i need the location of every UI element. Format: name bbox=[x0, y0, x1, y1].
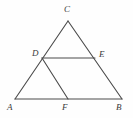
vertex-label-B: B bbox=[116, 103, 122, 112]
triangle-outline bbox=[15, 21, 122, 99]
vertex-label-F: F bbox=[62, 103, 68, 112]
segment-CB bbox=[68, 21, 122, 99]
inner-segments bbox=[42, 58, 95, 99]
segment-DF bbox=[42, 58, 68, 99]
vertex-label-E: E bbox=[99, 50, 105, 59]
vertex-label-D: D bbox=[32, 49, 39, 58]
geometry-canvas bbox=[0, 0, 133, 118]
vertex-label-C: C bbox=[64, 5, 70, 14]
geometry-figure: C D E A F B bbox=[0, 0, 133, 118]
vertex-label-A: A bbox=[7, 103, 13, 112]
